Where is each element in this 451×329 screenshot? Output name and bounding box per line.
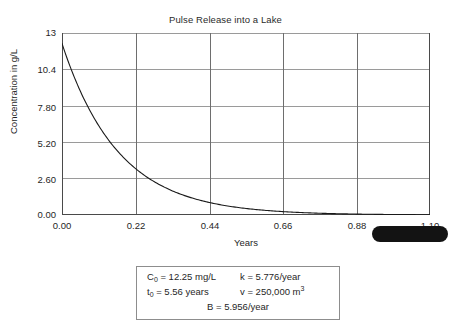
horizontal-gridlines bbox=[62, 34, 430, 179]
x-tick-label: 0.00 bbox=[37, 220, 87, 231]
x-tick-label: 0.44 bbox=[185, 220, 235, 231]
y-tick-label: 13 bbox=[45, 28, 56, 38]
vertical-gridlines bbox=[137, 33, 358, 215]
figure-root: Pulse Release into a Lake 13 10.4 7.80 5… bbox=[0, 0, 451, 329]
y-tick-label: 2.60 bbox=[38, 175, 57, 185]
plot-svg bbox=[62, 33, 430, 215]
parameter-volume: v = 250,000 m3 bbox=[240, 286, 339, 297]
subscript: 0 bbox=[150, 291, 154, 298]
parameter-b: B = 5.956/year bbox=[207, 301, 269, 312]
black-redaction-blob bbox=[372, 226, 448, 242]
x-tick-label: 0.66 bbox=[258, 220, 308, 231]
parameter-row-footer: B = 5.956/year bbox=[137, 301, 339, 316]
x-tick-label: 0.22 bbox=[111, 220, 161, 231]
y-tick-label: 5.20 bbox=[38, 139, 57, 149]
parameter-c0: C0 = 12.25 mg/L bbox=[137, 271, 240, 282]
parameter-legend-box: C0 = 12.25 mg/L k = 5.776/year t0 = 5.56… bbox=[136, 266, 340, 320]
y-axis-title: Concentration in g/L bbox=[8, 27, 19, 157]
chart-title: Pulse Release into a Lake bbox=[0, 14, 451, 25]
parameter-t0: t0 = 5.56 years bbox=[137, 286, 240, 297]
superscript: 3 bbox=[301, 285, 305, 292]
y-tick-label: 0.00 bbox=[38, 210, 57, 220]
parameter-row: t0 = 5.56 years v = 250,000 m3 bbox=[137, 286, 339, 301]
y-tick-label: 7.80 bbox=[38, 103, 57, 113]
subscript: 0 bbox=[154, 276, 158, 283]
parameter-row: C0 = 12.25 mg/L k = 5.776/year bbox=[137, 271, 339, 286]
y-tick-label: 10.4 bbox=[38, 65, 57, 75]
parameter-k: k = 5.776/year bbox=[240, 271, 339, 282]
axis-lines bbox=[62, 33, 430, 215]
plot-area bbox=[62, 33, 430, 215]
